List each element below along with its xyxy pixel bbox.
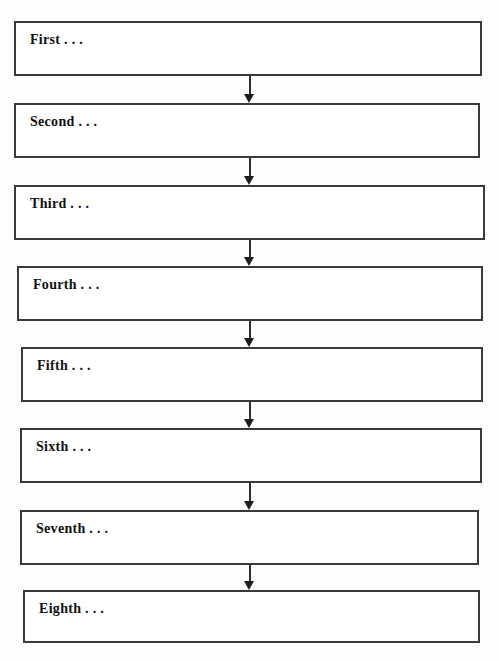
- flow-node[interactable]: Sixth . . .: [20, 428, 482, 483]
- flow-node[interactable]: Eighth . . .: [23, 590, 480, 643]
- flow-node-label: Third . . .: [30, 196, 89, 212]
- flow-node-label: Second . . .: [30, 114, 97, 130]
- down-arrow-icon: [244, 94, 254, 103]
- flow-node[interactable]: Second . . .: [14, 103, 480, 158]
- down-arrow-icon: [244, 501, 254, 510]
- flow-connector: [243, 321, 256, 347]
- arrow-shaft: [249, 483, 251, 502]
- flow-node[interactable]: First . . .: [14, 21, 482, 76]
- flow-node[interactable]: Fifth . . .: [21, 347, 483, 402]
- arrow-shaft: [249, 565, 251, 582]
- flow-connector: [243, 76, 256, 103]
- arrow-shaft: [249, 402, 251, 420]
- down-arrow-icon: [244, 338, 254, 347]
- down-arrow-icon: [244, 176, 254, 185]
- flow-node-label: First . . .: [30, 32, 83, 48]
- flow-node-label: Seventh . . .: [36, 521, 108, 537]
- flow-node-label: Sixth . . .: [36, 439, 91, 455]
- arrow-shaft: [249, 158, 251, 177]
- document-page: First . . .Second . . .Third . . .Fourth…: [0, 0, 499, 661]
- flowchart: First . . .Second . . .Third . . .Fourth…: [0, 0, 499, 661]
- flow-node-label: Fifth . . .: [37, 358, 91, 374]
- flow-node-label: Eighth . . .: [39, 601, 104, 617]
- arrow-shaft: [249, 76, 251, 95]
- flow-connector: [243, 402, 256, 428]
- flow-connector: [243, 483, 256, 510]
- flow-node[interactable]: Fourth . . .: [17, 266, 483, 321]
- flow-node[interactable]: Third . . .: [14, 185, 485, 240]
- flow-connector: [243, 240, 256, 266]
- arrow-shaft: [249, 240, 251, 258]
- flow-connector: [243, 158, 256, 185]
- down-arrow-icon: [244, 581, 254, 590]
- flow-node-label: Fourth . . .: [33, 277, 100, 293]
- arrow-shaft: [249, 321, 251, 339]
- flow-node[interactable]: Seventh . . .: [20, 510, 479, 565]
- flow-connector: [243, 565, 256, 590]
- down-arrow-icon: [244, 257, 254, 266]
- down-arrow-icon: [244, 419, 254, 428]
